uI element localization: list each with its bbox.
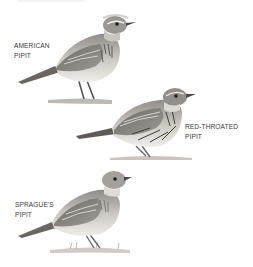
tail (18, 222, 56, 238)
tail (18, 66, 60, 84)
american-pipit-label: AMERICAN PIPIT (14, 41, 50, 61)
spragues-pipit-label-line2: PIPIT (15, 210, 54, 220)
perch (110, 156, 192, 160)
american-pipit-label-line2: PIPIT (14, 51, 50, 61)
legs (136, 146, 150, 157)
beak (124, 177, 132, 181)
spragues-pipit-label: SPRAGUE'S PIPIT (15, 200, 54, 220)
perch (48, 99, 112, 105)
red-throated-pipit-label-line1: RED-THROATED (185, 122, 238, 132)
red-throated-pipit-label: RED-THROATED PIPIT (185, 122, 238, 142)
red-throated-pipit-label-line2: PIPIT (185, 132, 238, 142)
beak (186, 94, 196, 98)
tail (76, 128, 116, 139)
top-fragment (18, 1, 128, 18)
american-pipit-label-line1: AMERICAN (14, 41, 50, 51)
beak (126, 22, 136, 26)
spragues-pipit-label-line1: SPRAGUE'S (15, 200, 54, 210)
